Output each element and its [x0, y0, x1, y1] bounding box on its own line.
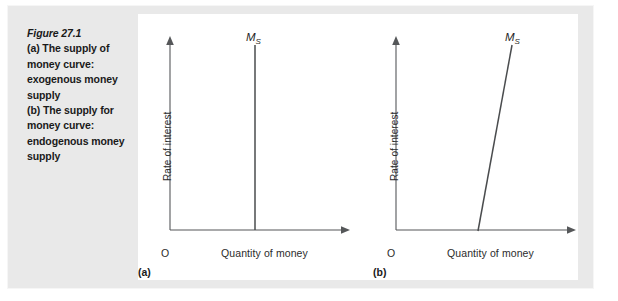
- money-supply-label-b: MS: [505, 31, 520, 46]
- x-axis-label-b: Quantity of money: [447, 247, 534, 259]
- y-axis-label-a: Rate of interest: [162, 112, 173, 181]
- chart-panel-b: Rate of interest Quantity of money O MS …: [373, 14, 593, 280]
- caption-line-8: supply: [27, 149, 131, 164]
- money-supply-label-a-main: M: [246, 31, 256, 43]
- panel-tag-a: (a): [138, 266, 151, 278]
- y-axis-arrow-b: [392, 36, 400, 45]
- panel-tag-b: (b): [373, 266, 386, 278]
- origin-label-a: O: [161, 247, 169, 259]
- origin-label-b: O: [387, 247, 395, 259]
- money-supply-label-b-sub: S: [515, 37, 520, 46]
- figure-caption: Figure 27.1 (a) The supply of money curv…: [27, 26, 131, 165]
- caption-line-6: money curve:: [27, 118, 131, 133]
- caption-line-3: exogenous money: [27, 72, 131, 87]
- chart-b-svg: [373, 14, 593, 280]
- money-supply-label-a-sub: S: [256, 37, 261, 46]
- caption-line-4: supply: [27, 88, 131, 103]
- x-axis-arrow-b: [567, 226, 576, 234]
- caption-line-2: money curve:: [27, 57, 131, 72]
- x-axis-arrow-a: [341, 226, 350, 234]
- x-axis-label-a: Quantity of money: [221, 247, 308, 259]
- chart-panel-a: Rate of interest Quantity of money O MS …: [138, 14, 358, 280]
- money-supply-label-b-main: M: [505, 31, 515, 43]
- figure-container: Figure 27.1 (a) The supply of money curv…: [0, 0, 618, 301]
- y-axis-arrow-a: [166, 36, 174, 45]
- money-supply-curve-b: [478, 45, 512, 231]
- caption-line-5: (b) The supply for: [27, 103, 131, 118]
- figure-number: Figure 27.1: [27, 26, 131, 41]
- caption-line-1: (a) The supply of: [27, 41, 131, 56]
- y-axis-label-b: Rate of interest: [389, 112, 400, 181]
- money-supply-label-a: MS: [246, 31, 261, 46]
- caption-line-7: endogenous money: [27, 134, 131, 149]
